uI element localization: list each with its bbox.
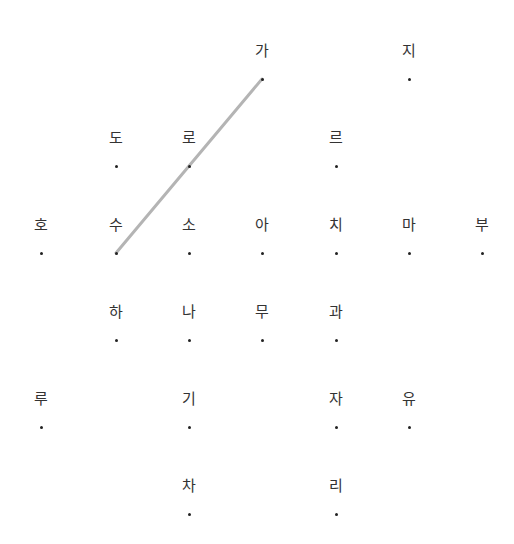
grid-node[interactable]: 아 — [242, 215, 282, 265]
node-dot-icon — [335, 165, 338, 168]
node-dot-icon — [40, 426, 43, 429]
grid-node[interactable]: 자 — [316, 389, 356, 439]
grid-node[interactable]: 마 — [389, 215, 429, 265]
grid-node[interactable]: 기 — [169, 389, 209, 439]
node-label: 하 — [96, 302, 136, 322]
node-label: 도 — [96, 128, 136, 148]
node-label: 치 — [316, 215, 356, 235]
grid-node[interactable]: 수 — [96, 215, 136, 265]
node-label: 차 — [169, 476, 209, 496]
node-dot-icon — [408, 426, 411, 429]
grid-node[interactable]: 무 — [242, 302, 282, 352]
node-label: 르 — [316, 128, 356, 148]
node-dot-icon — [335, 426, 338, 429]
node-dot-icon — [115, 252, 118, 255]
node-label: 호 — [21, 215, 61, 235]
grid-node[interactable]: 부 — [462, 215, 502, 265]
node-dot-icon — [261, 78, 264, 81]
grid-node[interactable]: 호 — [21, 215, 61, 265]
node-label: 리 — [316, 476, 356, 496]
grid-node[interactable]: 차 — [169, 476, 209, 526]
grid-node[interactable]: 치 — [316, 215, 356, 265]
grid-node[interactable]: 도 — [96, 128, 136, 178]
node-dot-icon — [40, 252, 43, 255]
node-label: 수 — [96, 215, 136, 235]
node-label: 마 — [389, 215, 429, 235]
grid-node[interactable]: 로 — [169, 128, 209, 178]
node-label: 루 — [21, 389, 61, 409]
grid-node[interactable]: 과 — [316, 302, 356, 352]
grid-node[interactable]: 르 — [316, 128, 356, 178]
node-dot-icon — [188, 252, 191, 255]
node-label: 유 — [389, 389, 429, 409]
node-dot-icon — [115, 165, 118, 168]
node-label: 자 — [316, 389, 356, 409]
grid-node[interactable]: 루 — [21, 389, 61, 439]
node-label: 소 — [169, 215, 209, 235]
node-dot-icon — [335, 252, 338, 255]
node-dot-icon — [188, 426, 191, 429]
node-dot-icon — [481, 252, 484, 255]
node-dot-icon — [115, 339, 118, 342]
node-dot-icon — [335, 339, 338, 342]
node-dot-icon — [408, 252, 411, 255]
grid-node[interactable]: 지 — [389, 41, 429, 91]
node-dot-icon — [408, 78, 411, 81]
node-label: 과 — [316, 302, 356, 322]
node-dot-icon — [261, 252, 264, 255]
node-label: 나 — [169, 302, 209, 322]
node-label: 무 — [242, 302, 282, 322]
node-dot-icon — [188, 339, 191, 342]
node-dot-icon — [188, 513, 191, 516]
node-label: 가 — [242, 41, 282, 61]
grid-node[interactable]: 하 — [96, 302, 136, 352]
node-label: 지 — [389, 41, 429, 61]
node-label: 아 — [242, 215, 282, 235]
node-label: 부 — [462, 215, 502, 235]
node-label: 기 — [169, 389, 209, 409]
grid-node[interactable]: 가 — [242, 41, 282, 91]
node-dot-icon — [188, 165, 191, 168]
word-grid-board[interactable]: 가지도로르호수소아치마부하나무과루기자유차리 — [0, 0, 514, 544]
node-label: 로 — [169, 128, 209, 148]
grid-node[interactable]: 리 — [316, 476, 356, 526]
grid-node[interactable]: 나 — [169, 302, 209, 352]
node-dot-icon — [261, 339, 264, 342]
node-dot-icon — [335, 513, 338, 516]
grid-node[interactable]: 유 — [389, 389, 429, 439]
grid-node[interactable]: 소 — [169, 215, 209, 265]
